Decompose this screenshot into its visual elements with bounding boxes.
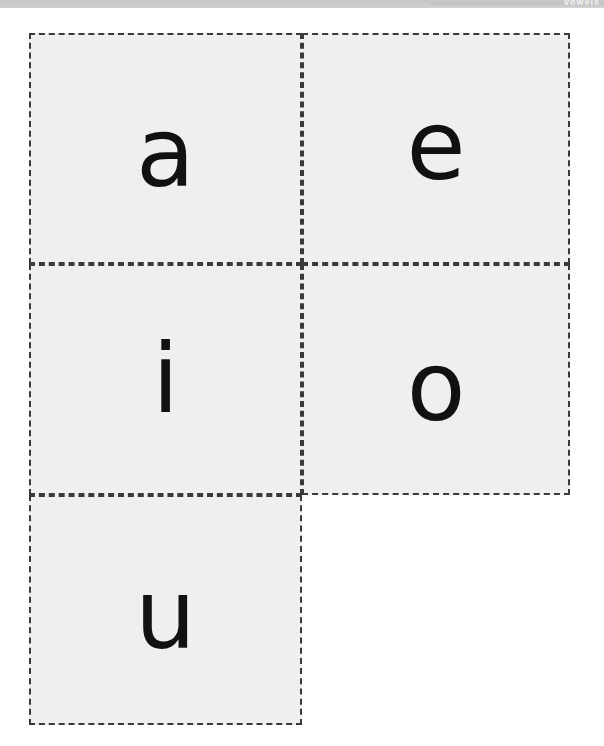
worksheet-body: a e i o u — [0, 8, 604, 746]
flashcard-letter-e: e — [406, 98, 465, 194]
flashcard-letter-u: u — [135, 567, 196, 663]
flashcard-i[interactable]: i — [29, 264, 302, 495]
flashcard-letter-i: i — [152, 331, 179, 427]
flashcard-letter-o: o — [407, 339, 466, 435]
flashcard-letter-a: a — [136, 105, 195, 201]
flashcard-o[interactable]: o — [302, 264, 570, 495]
flashcard-a[interactable]: a — [29, 33, 302, 264]
flashcard-u[interactable]: u — [29, 495, 302, 725]
flashcard-worksheet-page: { "header": { "band_text": "vowels", "ba… — [0, 0, 604, 746]
header-band-title: vowels — [564, 0, 600, 7]
header-band: vowels — [0, 0, 604, 8]
header-band-fill — [0, 0, 430, 8]
flashcard-grid: a e i o u — [29, 33, 570, 725]
flashcard-e[interactable]: e — [302, 33, 570, 264]
